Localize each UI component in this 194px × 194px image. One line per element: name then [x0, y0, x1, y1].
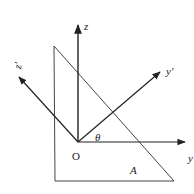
- diagram-canvas: z y y′ z′ O θ A: [0, 0, 194, 194]
- z-prime-axis-label: z′: [11, 61, 24, 71]
- origin-label: O: [72, 150, 80, 162]
- z-prime-axis: [19, 77, 78, 142]
- theta-label: θ: [95, 131, 101, 143]
- y-axis-label: y: [187, 152, 193, 164]
- y-prime-axis-label: y′: [165, 65, 174, 77]
- triangle-a-label: A: [129, 164, 137, 176]
- z-axis-label: z: [83, 20, 89, 32]
- y-prime-axis: [78, 72, 160, 142]
